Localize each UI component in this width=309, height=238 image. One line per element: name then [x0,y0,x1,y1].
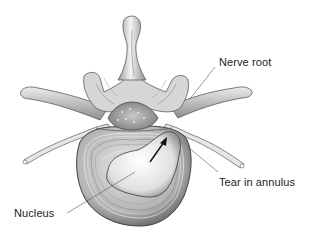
label-nucleus: Nucleus [14,207,54,219]
spinous-process [118,16,146,80]
vertebra-illustration [0,0,309,238]
label-tear-in-annulus: Tear in annulus [219,176,295,188]
label-nerve-root: Nerve root [219,56,271,68]
